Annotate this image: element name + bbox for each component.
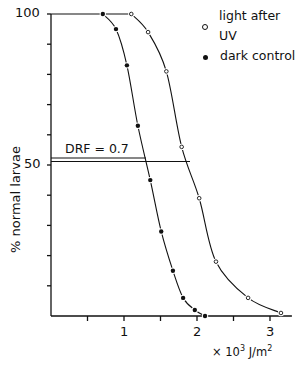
y-tick-label-50: 50 [24,156,41,171]
legend-item-dark: dark control [198,46,296,66]
filled-circle-marker-icon [203,55,208,60]
open-circle-marker-icon [202,24,208,30]
legend-item-light: light after UV [198,6,296,46]
x-tick-label-2: 2 [193,324,201,339]
legend-label-dark: dark control [220,46,295,66]
drf-annotation: DRF = 0.7 [65,141,129,156]
curve-1 [103,14,205,316]
legend: light after UV dark control [198,6,296,66]
drf-lines [51,158,190,162]
legend-label-light: light after UV [219,6,296,46]
y-tick-label-100: 100 [15,5,40,20]
x-axis-unit-label: × 103 J/m2 [212,344,272,359]
x-tick-label-3: 3 [266,324,274,339]
y-axis-label: % normal larvae [8,145,23,255]
x-tick-label-1: 1 [120,324,128,339]
